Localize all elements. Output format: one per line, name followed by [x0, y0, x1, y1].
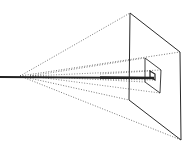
background: [0, 0, 191, 147]
perspective-projection-diagram: [0, 0, 191, 147]
central-ray-thick: [100, 78, 154, 79]
diagram-canvas: [0, 0, 191, 147]
